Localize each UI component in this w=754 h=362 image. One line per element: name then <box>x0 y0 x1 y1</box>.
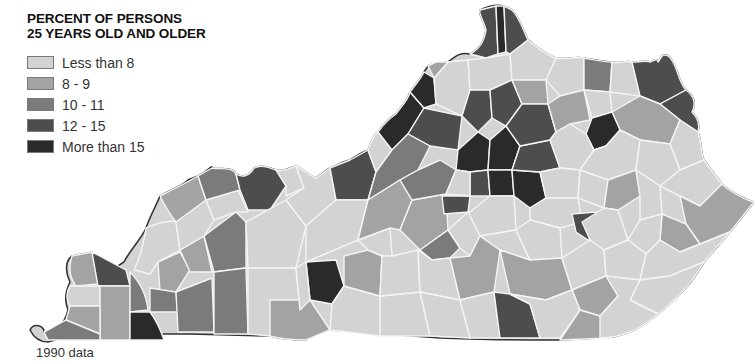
legend-swatch <box>27 56 54 69</box>
legend-label: More than 15 <box>62 139 145 155</box>
legend-label: 10 - 11 <box>62 97 105 113</box>
legend-swatch <box>27 77 54 90</box>
legend-title-line2: 25 YEARS OLD AND OLDER <box>27 26 206 41</box>
legend-label: 12 - 15 <box>62 118 106 134</box>
legend-item-more-than-15: More than 15 <box>27 136 145 157</box>
legend-item-10-11: 10 - 11 <box>27 94 145 115</box>
legend: Less than 8 8 - 9 10 - 11 12 - 15 More t… <box>27 52 145 157</box>
data-year-caption: 1990 data <box>36 345 94 360</box>
county <box>470 170 490 196</box>
legend-title-line1: PERCENT OF PERSONS <box>27 11 206 26</box>
legend-item-8-9: 8 - 9 <box>27 73 145 94</box>
county <box>214 268 248 334</box>
legend-item-12-15: 12 - 15 <box>27 115 145 136</box>
county <box>470 6 498 58</box>
legend-swatch <box>27 119 54 132</box>
legend-item-less-than-8: Less than 8 <box>27 52 145 73</box>
county <box>540 168 580 198</box>
county <box>67 286 100 306</box>
county <box>100 286 130 340</box>
county <box>92 252 130 286</box>
legend-label: Less than 8 <box>62 55 134 71</box>
county <box>584 58 612 92</box>
county <box>442 196 470 214</box>
legend-swatch <box>27 140 54 153</box>
legend-title: PERCENT OF PERSONS 25 YEARS OLD AND OLDE… <box>27 11 206 41</box>
legend-label: 8 - 9 <box>62 76 90 92</box>
county <box>488 170 514 196</box>
legend-swatch <box>27 98 54 111</box>
county <box>150 288 178 312</box>
county <box>380 250 420 296</box>
